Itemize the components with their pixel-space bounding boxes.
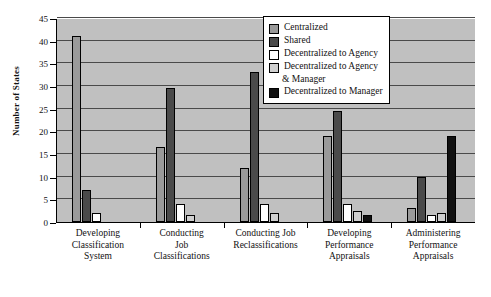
bar [363, 215, 372, 222]
bar [156, 147, 165, 222]
bar-cluster [72, 36, 122, 222]
bar [92, 213, 101, 222]
bar [333, 111, 342, 222]
legend-item: & Manager [269, 74, 383, 85]
y-tick-label: 45 [22, 14, 48, 24]
legend-label: Decentralized to Agency [284, 61, 378, 72]
legend-item: Centralized [269, 22, 383, 34]
y-tick-label: 0 [22, 218, 48, 228]
bar-cluster [156, 88, 206, 222]
legend-item: Shared [269, 35, 383, 47]
y-tick-label: 5 [22, 195, 48, 205]
legend-item: Decentralized to Agency [269, 61, 383, 73]
x-axis-separator [224, 223, 225, 228]
bar [250, 72, 259, 222]
x-tick-label: Conducting JobReclassifications [224, 228, 308, 263]
y-tick-label: 30 [22, 82, 48, 92]
bar [240, 168, 249, 222]
bar [447, 136, 456, 222]
legend-label: Shared [284, 35, 310, 46]
x-tick-label: ConductingJobClassifications [140, 228, 224, 263]
bar [176, 204, 185, 222]
bar-cluster [323, 111, 373, 222]
bar-chart: Number of States 051015202530354045 Deve… [0, 0, 491, 297]
bar [82, 190, 91, 222]
x-tick-label: DevelopingClassificationSystem [56, 228, 140, 263]
y-tick-label: 25 [22, 105, 48, 115]
bar [270, 213, 279, 222]
bar [353, 211, 362, 222]
legend-swatch [269, 63, 279, 73]
y-tick-label: 40 [22, 37, 48, 47]
x-axis-separator [307, 223, 308, 228]
bar [407, 208, 416, 222]
bar [166, 88, 175, 222]
legend-item: Decentralized to Manager [269, 86, 383, 98]
y-tick-label: 10 [22, 173, 48, 183]
bar [417, 177, 426, 222]
y-axis-title: Number of States [11, 41, 21, 161]
x-tick-label: AdministeringPerformanceAppraisals [391, 228, 475, 263]
bar [427, 215, 436, 222]
bar [186, 215, 195, 222]
bar-cluster [407, 136, 457, 222]
legend-swatch [269, 24, 279, 34]
legend-item: Decentralized to Agency [269, 48, 383, 60]
y-tick-mark [50, 223, 56, 224]
legend-label: Centralized [284, 22, 328, 33]
y-tick-label: 35 [22, 59, 48, 69]
legend: CentralizedSharedDecentralized to Agency… [263, 16, 390, 104]
legend-label: Decentralized to Manager [284, 86, 383, 97]
legend-swatch [269, 50, 279, 60]
bar [260, 204, 269, 222]
bar [437, 213, 446, 222]
x-tick-label: DevelopingPerformanceAppraisals [307, 228, 391, 263]
bar [343, 204, 352, 222]
bar [323, 136, 332, 222]
x-axis-separator [391, 223, 392, 228]
x-axis-labels: DevelopingClassificationSystemConducting… [56, 228, 475, 263]
y-tick-label: 15 [22, 150, 48, 160]
legend-swatch [269, 88, 279, 98]
x-axis-separator [140, 223, 141, 228]
legend-swatch [269, 37, 279, 47]
bar [72, 36, 81, 222]
legend-label: Decentralized to Agency [284, 48, 378, 59]
legend-label: & Manager [282, 74, 326, 85]
y-tick-label: 20 [22, 127, 48, 137]
